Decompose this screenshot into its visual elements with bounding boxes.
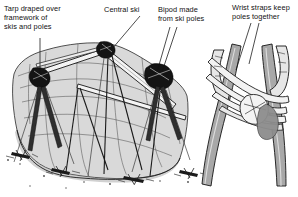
apex-lashing bbox=[96, 41, 115, 58]
label-wrist-straps: Wrist straps keep poles together bbox=[232, 3, 298, 21]
crossed-poles-detail-group bbox=[202, 44, 289, 186]
label-bipod: Bipod made from ski poles bbox=[158, 5, 224, 23]
bipod-leader-b bbox=[162, 27, 177, 72]
label-central-ski: Central ski bbox=[104, 5, 160, 14]
tarp-shelter-group bbox=[6, 41, 208, 188]
central-ski-leader bbox=[112, 16, 140, 49]
label-tarp-draped: Tarp draped over framework of skis and p… bbox=[4, 4, 92, 32]
wrist-leader-b bbox=[249, 23, 259, 64]
